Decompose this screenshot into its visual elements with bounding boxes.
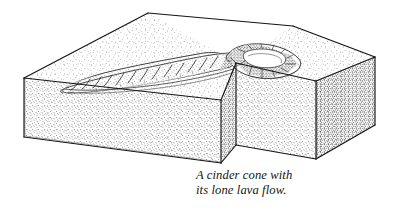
figure-root: A cinder cone with its lone lava flow. [0,0,395,218]
caption-line-1: A cinder cone with [196,168,356,183]
figure-caption: A cinder cone with its lone lava flow. [196,168,356,197]
caption-line-2: its lone lava flow. [196,183,356,198]
